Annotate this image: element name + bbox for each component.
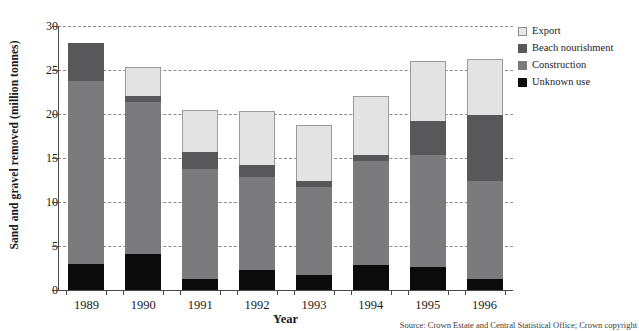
- x-tick-mark-1991-right: [220, 290, 221, 295]
- bar-segment-unknown-use-1996[interactable]: [467, 279, 503, 290]
- y-axis-ticks: 051015202530: [26, 26, 58, 290]
- bar-segment-export-1996[interactable]: [467, 59, 503, 115]
- legend-item-unknown-use[interactable]: Unknown use: [518, 75, 639, 90]
- legend-item-export[interactable]: Export: [518, 24, 639, 39]
- beach-nourishment-swatch: [518, 44, 527, 53]
- bar-column-1996[interactable]: [467, 26, 503, 290]
- bar-stack-1994: [353, 96, 389, 290]
- bar-stack-1992: [239, 111, 275, 290]
- x-tick-mark-1993-right: [334, 290, 335, 295]
- bar-segment-export-1993[interactable]: [296, 125, 332, 180]
- bar-column-1992[interactable]: [239, 26, 275, 290]
- bar-segment-unknown-use-1989[interactable]: [68, 264, 104, 290]
- bar-segment-unknown-use-1993[interactable]: [296, 275, 332, 290]
- x-tick-mark-1992-right: [277, 290, 278, 295]
- x-tick-mark-1990: [123, 290, 124, 295]
- bar-segment-export-1995[interactable]: [410, 61, 446, 121]
- x-tick-mark-1994: [351, 290, 352, 295]
- chart-legend: ExportBeach nourishmentConstructionUnkno…: [518, 24, 639, 92]
- bar-segment-unknown-use-1994[interactable]: [353, 265, 389, 290]
- bar-segment-construction-1994[interactable]: [353, 161, 389, 266]
- x-tick-mark-1990-right: [163, 290, 164, 295]
- bar-segment-export-1992[interactable]: [239, 111, 275, 166]
- export-swatch: [518, 27, 527, 36]
- x-tick-mark-1996-right: [505, 290, 506, 295]
- bar-stack-1991: [182, 110, 218, 290]
- bar-segment-construction-1990[interactable]: [125, 102, 161, 254]
- bar-segment-construction-1992[interactable]: [239, 177, 275, 269]
- legend-item-beach-nourishment[interactable]: Beach nourishment: [518, 41, 639, 56]
- bar-series-group: [58, 26, 513, 290]
- bar-segment-beach-nourishment-1996[interactable]: [467, 115, 503, 181]
- y-axis-title-text: Sand and gravel removed (million tonnes): [8, 40, 20, 249]
- bar-segment-construction-1993[interactable]: [296, 187, 332, 275]
- bar-segment-beach-nourishment-1992[interactable]: [239, 165, 275, 177]
- y-axis-line: [58, 26, 59, 290]
- bar-stack-1996: [467, 59, 503, 290]
- bar-column-1994[interactable]: [353, 26, 389, 290]
- bar-segment-export-1990[interactable]: [125, 67, 161, 96]
- bar-column-1993[interactable]: [296, 26, 332, 290]
- bar-segment-unknown-use-1990[interactable]: [125, 254, 161, 290]
- legend-label-beach-nourishment: Beach nourishment: [532, 43, 613, 54]
- bar-column-1990[interactable]: [125, 26, 161, 290]
- construction-swatch: [518, 61, 527, 70]
- plot-area: [58, 26, 513, 290]
- x-tick-mark-1992: [237, 290, 238, 295]
- bar-segment-construction-1991[interactable]: [182, 169, 218, 279]
- bar-stack-1989: [68, 43, 104, 290]
- x-tick-mark-1989-right: [106, 290, 107, 295]
- x-tick-mark-1994-right: [391, 290, 392, 295]
- legend-item-construction[interactable]: Construction: [518, 58, 639, 73]
- bar-column-1995[interactable]: [410, 26, 446, 290]
- bar-segment-export-1991[interactable]: [182, 110, 218, 151]
- bar-segment-beach-nourishment-1991[interactable]: [182, 152, 218, 169]
- bar-segment-beach-nourishment-1995[interactable]: [410, 121, 446, 155]
- x-tick-mark-1996: [465, 290, 466, 295]
- bar-stack-1993: [296, 125, 332, 290]
- bar-segment-unknown-use-1992[interactable]: [239, 270, 275, 290]
- bar-segment-unknown-use-1991[interactable]: [182, 279, 218, 290]
- unknown-use-swatch: [518, 78, 527, 87]
- source-note: Source: Crown Estate and Central Statist…: [400, 320, 637, 330]
- bar-column-1989[interactable]: [68, 26, 104, 290]
- x-axis-tick-marks: [58, 290, 513, 296]
- bar-column-1991[interactable]: [182, 26, 218, 290]
- legend-label-export: Export: [532, 26, 561, 37]
- bar-segment-construction-1995[interactable]: [410, 155, 446, 267]
- y-axis-title: Sand and gravel removed (million tonnes): [0, 0, 28, 290]
- x-tick-mark-1991: [180, 290, 181, 295]
- x-tick-mark-1995-right: [448, 290, 449, 295]
- bar-segment-construction-1989[interactable]: [68, 81, 104, 263]
- x-tick-mark-1989: [66, 290, 67, 295]
- bar-segment-construction-1996[interactable]: [467, 181, 503, 280]
- bar-stack-1990: [125, 67, 161, 290]
- legend-label-construction: Construction: [532, 60, 586, 71]
- legend-label-unknown-use: Unknown use: [532, 77, 590, 88]
- bar-segment-beach-nourishment-1989[interactable]: [68, 43, 104, 82]
- x-tick-mark-1993: [294, 290, 295, 295]
- x-tick-mark-1995: [408, 290, 409, 295]
- bar-segment-export-1994[interactable]: [353, 96, 389, 155]
- bar-segment-unknown-use-1995[interactable]: [410, 267, 446, 290]
- bar-stack-1995: [410, 61, 446, 290]
